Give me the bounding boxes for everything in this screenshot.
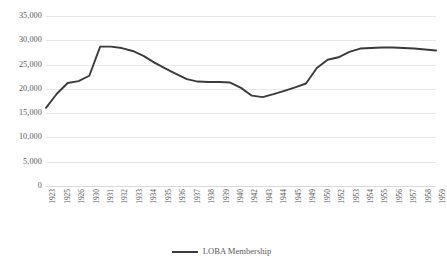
- series-line-0: [46, 47, 436, 108]
- x-tick-label: 1926: [78, 189, 85, 204]
- x-tick-label: 1933: [136, 189, 143, 204]
- x-tick-label: 1935: [165, 189, 172, 204]
- x-tick-label: 1937: [194, 189, 201, 204]
- x-tick-label: 1940: [237, 189, 244, 204]
- x-tick-label: 1956: [396, 189, 403, 204]
- x-tick-label: 1945: [295, 189, 302, 204]
- y-tick-label: 20,000: [19, 85, 42, 93]
- x-tick-label: 1931: [107, 189, 114, 204]
- x-tick-label: 1939: [223, 189, 230, 204]
- series-layer: [46, 16, 436, 186]
- x-tick-label: 1950: [324, 189, 331, 204]
- x-tick-label: 1952: [338, 189, 345, 204]
- x-tick-label: 1949: [309, 189, 316, 204]
- x-tick-label: 1942: [251, 189, 258, 204]
- y-tick-label: 5,000: [23, 158, 42, 166]
- x-tick-label: 1957: [410, 189, 417, 204]
- x-tick-label: 1923: [49, 189, 56, 204]
- y-tick-label: 0: [38, 182, 42, 190]
- y-tick-label: 30,000: [19, 36, 42, 44]
- x-tick-label: 1943: [266, 189, 273, 204]
- x-tick-label: 1954: [367, 189, 374, 204]
- chart-legend: LOBA Membership: [0, 247, 443, 256]
- x-tick-label: 1930: [93, 189, 100, 204]
- x-tick-label: 1938: [208, 189, 215, 204]
- y-tick-label: 25,000: [19, 60, 42, 68]
- x-tick-label: 1958: [425, 189, 432, 204]
- axis-baseline: [46, 186, 436, 187]
- legend-line-swatch: [172, 251, 198, 253]
- x-tick-label: 1925: [64, 189, 71, 204]
- x-tick-label: 1944: [280, 189, 287, 204]
- y-tick-label: 10,000: [19, 133, 42, 141]
- x-tick-label: 1953: [353, 189, 360, 204]
- y-tick-label: 15,000: [19, 109, 42, 117]
- legend-label-loba-membership: LOBA Membership: [203, 247, 272, 256]
- y-tick-label: 35,000: [19, 12, 42, 20]
- x-tick-label: 1955: [381, 189, 388, 204]
- y-axis-labels: 05,00010,00015,00020,00025,00030,00035,0…: [0, 16, 42, 186]
- x-axis-labels: 1923192519261930193119321933193419351936…: [46, 189, 436, 235]
- x-tick-label: 1936: [179, 189, 186, 204]
- x-tick-label: 1934: [150, 189, 157, 204]
- x-tick-label: 1932: [121, 189, 128, 204]
- plot-area: [46, 16, 436, 186]
- x-tick-label: 1959: [439, 189, 446, 204]
